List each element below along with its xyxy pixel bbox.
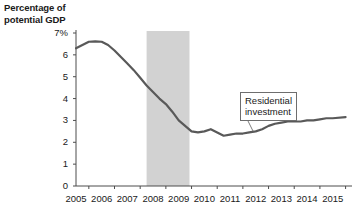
y-tick-label: 3	[28, 115, 68, 125]
residential-investment-callout: Residential investment	[240, 92, 297, 121]
y-tick-label: 6	[28, 50, 68, 60]
y-tick-label: 7%	[28, 28, 68, 38]
y-tick-label: 0	[28, 181, 68, 191]
x-tick-label: 2015	[313, 194, 353, 204]
callout-leader-line	[248, 121, 253, 131]
callout-line-1: Residential	[245, 95, 292, 106]
y-tick-label: 5	[28, 72, 68, 82]
recession-shaded-band	[147, 31, 190, 186]
residential-investment-line	[76, 41, 346, 135]
y-tick-label: 2	[28, 137, 68, 147]
y-tick-label: 4	[28, 94, 68, 104]
callout-line-2: investment	[245, 106, 292, 117]
chart-figure: Percentage of potential GDP 01234567% 20…	[0, 0, 358, 213]
y-tick-label: 1	[28, 159, 68, 169]
